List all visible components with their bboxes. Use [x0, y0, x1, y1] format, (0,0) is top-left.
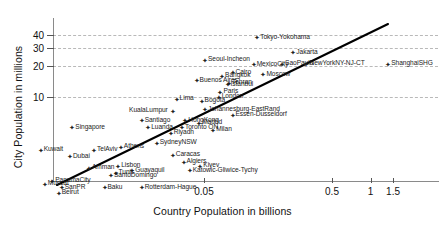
point-marker-icon: ✦ — [260, 73, 264, 77]
point-marker-icon: ✦ — [254, 36, 258, 40]
point-label: NewYorkNY-NJ-CT — [309, 59, 364, 66]
point-label: Dubai — [73, 152, 90, 159]
point-marker-icon: ✦ — [230, 114, 234, 118]
point-label: Tokyo-Yokohama — [260, 33, 310, 40]
point-label: SantoDomingo — [114, 171, 157, 178]
point-marker-icon: ✦ — [199, 100, 203, 104]
point-marker-icon: ✦ — [174, 98, 178, 102]
point-marker-icon: ✦ — [251, 63, 255, 67]
point-marker-icon: ✦ — [210, 129, 214, 133]
x-axis-title: Country Population in billions — [0, 205, 445, 217]
point-label: Essen-Dusseldorf — [236, 110, 287, 117]
point-marker-icon: ✦ — [303, 63, 307, 67]
point-marker-icon: ✦ — [38, 149, 42, 153]
point-label: Jakarta — [296, 48, 317, 55]
point-marker-icon: ✦ — [118, 146, 122, 150]
y-axis-title: City Population in millions — [12, 17, 24, 197]
point-marker-icon: ✦ — [91, 149, 95, 153]
point-marker-icon: ✦ — [290, 51, 294, 55]
point-label: Katowic-Gliwice-Tychy — [193, 166, 258, 173]
point-marker-icon: ✦ — [69, 126, 73, 130]
point-marker-icon: ✦ — [202, 59, 206, 63]
point-marker-icon: ✦ — [139, 119, 143, 123]
point-label: Amman — [92, 163, 114, 170]
point-marker-icon: ✦ — [86, 167, 90, 171]
point-label: Istanbul — [231, 80, 254, 87]
point-marker-icon: ✦ — [187, 169, 191, 173]
point-label: Baku — [108, 183, 123, 190]
point-label: Beirut — [62, 188, 79, 195]
point-label: SydneyNSW — [160, 138, 197, 145]
scatter-chart: 10203040 0.050.511.5 ✦Tokyo-Yokohama✦Jak… — [0, 0, 445, 230]
point-label: Luanda — [151, 123, 173, 130]
point-label: Riyadh — [174, 128, 194, 135]
point-label: KualaLumpur — [129, 106, 168, 113]
point-marker-icon: ✦ — [139, 186, 143, 190]
point-marker-icon: ✦ — [108, 174, 112, 178]
point-marker-icon: ✦ — [181, 161, 185, 165]
point-marker-icon: ✦ — [56, 192, 60, 196]
point-label: Kuwait — [44, 145, 64, 152]
point-marker-icon: ✦ — [67, 155, 71, 159]
point-marker-icon: ✦ — [170, 110, 174, 114]
point-label: Singapore — [75, 123, 105, 130]
point-label: Lima — [180, 94, 194, 101]
point-marker-icon: ✦ — [385, 63, 389, 67]
data-points-layer: ✦Tokyo-Yokohama✦Jakarta✦Seoul-Incheon✦Sh… — [0, 0, 445, 230]
point-label: Milan — [216, 125, 232, 132]
point-label: Rotterdam-Hague — [145, 183, 197, 190]
point-label: Seoul-Incheon — [208, 55, 250, 62]
point-label: Moscow — [266, 70, 290, 77]
point-label: Athens — [124, 142, 144, 149]
point-label: ShanghaiSHG — [391, 59, 433, 66]
point-marker-icon: ✦ — [279, 63, 283, 67]
point-marker-icon: ✦ — [102, 186, 106, 190]
point-marker-icon: ✦ — [145, 126, 149, 130]
point-label: TelAviv — [97, 145, 117, 152]
point-marker-icon: ✦ — [202, 108, 206, 112]
point-marker-icon: ✦ — [194, 79, 198, 83]
point-label: Bogota — [205, 96, 226, 103]
point-label: Caracas — [176, 150, 200, 157]
point-marker-icon: ✦ — [42, 183, 46, 187]
point-marker-icon: ✦ — [170, 154, 174, 158]
point-marker-icon: ✦ — [154, 142, 158, 146]
point-marker-icon: ✦ — [168, 132, 172, 136]
